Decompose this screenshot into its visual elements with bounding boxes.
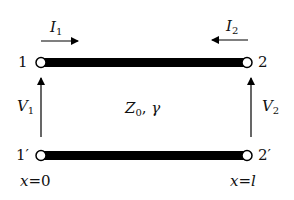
terminal-2	[242, 58, 252, 68]
label-v2: V2	[262, 99, 279, 116]
terminal-2-prime	[242, 151, 252, 161]
terminal-1-prime	[36, 151, 46, 161]
port-label-2: 2	[258, 55, 268, 70]
port-label-2-prime: 2′	[258, 148, 271, 163]
position-label-left: x=0	[20, 174, 51, 189]
label-i2: I2	[226, 19, 238, 36]
terminal-1	[36, 58, 46, 68]
port-label-1: 1	[18, 55, 28, 70]
line-parameters-label: Z0, γ	[125, 101, 160, 118]
bottom-conductor	[41, 151, 247, 160]
position-label-right: x=l	[230, 174, 256, 189]
label-v1: V1	[17, 99, 34, 116]
top-conductor	[41, 58, 247, 67]
label-i1: I1	[50, 20, 62, 37]
port-label-1-prime: 1′	[16, 148, 29, 163]
